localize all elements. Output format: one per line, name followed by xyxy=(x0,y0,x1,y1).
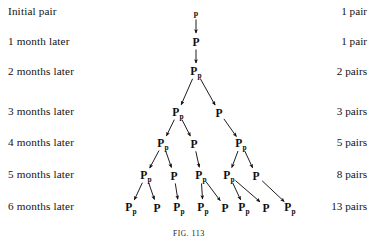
node-glyph-adult: P xyxy=(215,107,222,119)
tree-edge-n4c-to-n5e xyxy=(245,151,253,168)
tree-edge-n4c-to-n5d xyxy=(232,151,238,168)
node-glyph-adult: P xyxy=(170,170,177,182)
tree-node-n0: p xyxy=(194,3,198,19)
pair-count-1: 1 pair xyxy=(286,35,378,47)
node-glyph-offspring: p xyxy=(181,207,185,216)
tree-node-n4a: Pp xyxy=(157,134,168,152)
node-glyph-offspring: p xyxy=(133,207,137,216)
tree-node-n4c: Pp xyxy=(235,134,246,152)
node-glyph-adult: P xyxy=(190,138,197,150)
node-glyph-adult: P xyxy=(173,201,180,213)
tree-node-n5d: Pp xyxy=(223,166,234,184)
caption-number: 113 xyxy=(191,229,204,238)
tree-node-n6f: Pp xyxy=(238,198,249,216)
node-glyph-offspring: p xyxy=(165,143,169,152)
pair-count-2: 2 pairs xyxy=(286,65,378,77)
tree-edge-n5b-to-n6c xyxy=(175,183,177,199)
month-label-5: 5 months later xyxy=(8,168,74,180)
tree-node-n5a: Pp xyxy=(140,166,151,184)
caption-prefix: FIG. xyxy=(173,229,189,238)
month-label-4: 4 months later xyxy=(8,136,74,148)
tree-edge-n2-to-n3b xyxy=(200,78,215,105)
tree-edge-n5a-to-n6b xyxy=(149,183,155,199)
tree-node-n5c: Pp xyxy=(195,166,206,184)
pair-count-5: 8 pairs xyxy=(286,168,378,180)
node-glyph-adult: P xyxy=(238,201,245,213)
node-glyph-adult: P xyxy=(221,202,228,214)
tree-node-n4b: P xyxy=(190,135,197,151)
tree-node-n3b: P xyxy=(215,104,222,120)
pair-count-6: 13 pairs xyxy=(286,200,378,212)
tree-node-n5b: P xyxy=(170,167,177,183)
node-glyph-adult: P xyxy=(157,137,164,149)
tree-node-n3a: Pp xyxy=(172,103,183,121)
tree-edge-n5c-to-n6d xyxy=(202,183,203,199)
tree-node-n5e: P xyxy=(252,167,259,183)
node-glyph-adult: P xyxy=(125,201,132,213)
node-glyph-offspring: p xyxy=(148,175,152,184)
node-glyph-adult: P xyxy=(192,36,199,48)
edge-group xyxy=(134,20,284,202)
tree-node-n6d: Pp xyxy=(197,198,208,216)
node-glyph-adult: P xyxy=(235,137,242,149)
figure-caption: FIG. 113 xyxy=(0,229,378,238)
tree-node-n6e: P xyxy=(221,199,228,215)
node-glyph-adult: P xyxy=(223,169,230,181)
node-glyph-adult: P xyxy=(172,106,179,118)
node-glyph-adult: P xyxy=(195,169,202,181)
fibonacci-rabbit-figure: pPPpPpPPpPPpPpPPpPpPPpPPpPpPPpPPp Initia… xyxy=(0,0,378,246)
tree-edge-n3a-to-n4b xyxy=(182,120,190,136)
tree-edge-n4a-to-n5b xyxy=(166,151,172,167)
tree-edge-n5d-to-n6f xyxy=(233,183,241,200)
node-glyph-offspring: p xyxy=(246,207,250,216)
node-glyph-offspring: p xyxy=(180,112,184,121)
node-glyph-adult: P xyxy=(140,169,147,181)
tree-node-n6c: Pp xyxy=(173,198,184,216)
node-glyph-offspring: p xyxy=(203,175,207,184)
month-label-2: 2 months later xyxy=(8,65,74,77)
node-glyph-adult: P xyxy=(252,170,259,182)
tree-edge-n2-to-n3a xyxy=(181,79,192,105)
node-glyph-adult: P xyxy=(197,201,204,213)
tree-edge-n5a-to-n6a xyxy=(134,183,142,200)
tree-node-n2: Pp xyxy=(190,62,201,80)
tree-node-n1: P xyxy=(192,33,199,49)
tree-node-n6a: Pp xyxy=(125,198,136,216)
tree-node-n6b: P xyxy=(153,199,160,215)
pair-count-3: 3 pairs xyxy=(286,105,378,117)
node-glyph-adult: P xyxy=(190,65,197,77)
node-glyph-offspring: p xyxy=(243,143,247,152)
node-glyph-adult: P xyxy=(262,202,269,214)
pair-count-4: 5 pairs xyxy=(286,136,378,148)
node-glyph-offspring: p xyxy=(205,207,209,216)
node-glyph-adult: P xyxy=(153,202,160,214)
node-glyph-offspring: p xyxy=(198,71,202,80)
month-label-6: 6 months later xyxy=(8,200,74,212)
node-glyph-baby: p xyxy=(194,9,198,18)
tree-edge-n4b-to-n5c xyxy=(196,151,199,167)
tree-node-n6g: P xyxy=(262,199,269,215)
month-label-0: Initial pair xyxy=(8,5,57,17)
month-label-1: 1 month later xyxy=(8,35,70,47)
node-glyph-offspring: p xyxy=(231,175,235,184)
month-label-3: 3 months later xyxy=(8,105,74,117)
pair-count-0: 1 pair xyxy=(286,5,378,17)
